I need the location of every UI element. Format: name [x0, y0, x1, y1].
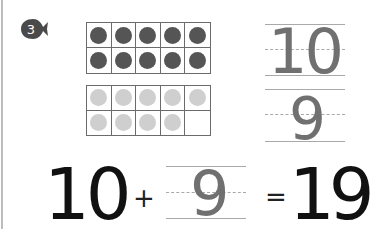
counter-dark — [164, 27, 181, 44]
empty-cell — [185, 111, 210, 136]
counter-light — [90, 89, 107, 106]
counter-light — [139, 89, 156, 106]
plus-sign: + — [133, 185, 155, 211]
counter-dark — [189, 27, 206, 44]
counter-dark — [115, 27, 132, 44]
equals-sign: = — [265, 184, 287, 210]
counter-light — [164, 89, 181, 106]
fish-badge-icon: 3 — [19, 18, 49, 40]
equation-addend-2: 9 — [190, 163, 229, 225]
ten-frame-top — [86, 22, 211, 74]
counter-light — [115, 114, 132, 131]
ten-frame-bottom — [86, 85, 211, 136]
counter-dark — [90, 27, 107, 44]
vertical-addend-1: 10 — [268, 21, 341, 83]
counter-dark — [139, 52, 156, 69]
equation-sum: 19 — [289, 158, 369, 229]
counter-dark — [115, 52, 132, 69]
equation-addend-1: 10 — [44, 158, 128, 229]
counter-dark — [90, 52, 107, 69]
counter-dark — [164, 52, 181, 69]
counter-light — [139, 114, 156, 131]
svg-text:3: 3 — [27, 22, 35, 37]
page-edge — [1, 0, 3, 229]
counter-dark — [189, 52, 206, 69]
counter-light — [90, 114, 107, 131]
counter-light — [164, 114, 181, 131]
counter-light — [115, 89, 132, 106]
counter-dark — [139, 27, 156, 44]
counter-light — [189, 89, 206, 106]
vertical-addend-2: 9 — [289, 90, 326, 148]
